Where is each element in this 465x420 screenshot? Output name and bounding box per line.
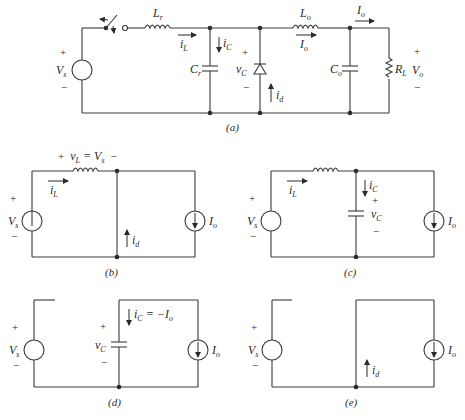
- vo-plus: +: [414, 45, 420, 57]
- rl-label: RL: [394, 62, 407, 78]
- switch-contact: [123, 26, 128, 31]
- io-label: Io: [447, 343, 456, 359]
- caption-d: (d): [108, 396, 121, 409]
- id-label: id: [372, 363, 380, 379]
- voltage-source-vs: [261, 211, 281, 231]
- vs-minus: −: [250, 230, 256, 242]
- diode-icon: [254, 64, 266, 74]
- voltage-source-vs: [72, 60, 92, 80]
- id-label: id: [276, 88, 284, 104]
- panel-a-circuit: + − Vs Lr iL Cr iC + vC −: [56, 3, 423, 134]
- vs-minus: −: [61, 81, 67, 93]
- vs-label: Vs: [56, 63, 66, 79]
- resonant-converter-figure: + − Vs Lr iL Cr iC + vC −: [0, 0, 465, 420]
- vc-minus: −: [243, 81, 249, 93]
- caption-e: (e): [345, 396, 358, 409]
- node: [354, 385, 359, 390]
- vs-minus: −: [11, 230, 17, 242]
- caption-a: (a): [226, 121, 239, 134]
- switch-blade-icon: [106, 15, 117, 28]
- vs-label: Vs: [9, 343, 19, 359]
- vc-plus: +: [372, 194, 378, 206]
- vs-label: Vs: [8, 214, 18, 230]
- vs-plus: +: [251, 321, 257, 333]
- caption-b: (b): [105, 266, 118, 279]
- node: [208, 111, 213, 116]
- node: [348, 111, 353, 116]
- io-label: Io: [211, 343, 220, 359]
- output-io-label: Io: [356, 3, 365, 19]
- io-label: Io: [208, 214, 217, 230]
- vl-equals-vs-label: +vL = Vs−: [58, 149, 117, 165]
- vs-plus: +: [10, 192, 16, 204]
- vc-plus: +: [100, 320, 106, 332]
- vo-label: Vo: [412, 63, 423, 79]
- node: [354, 255, 359, 260]
- panel-b-circuit: + Vs − +vL = Vs− iL id Io (b): [8, 149, 217, 279]
- vs-minus: −: [252, 359, 258, 371]
- vo-minus: −: [414, 81, 420, 93]
- inductor-icon: [73, 168, 98, 171]
- co-label: Co: [330, 62, 342, 78]
- il-label: iL: [289, 183, 297, 199]
- lo-label: Lo: [299, 6, 311, 22]
- vs-minus: −: [13, 359, 19, 371]
- vs-plus: +: [249, 192, 255, 204]
- vs-label: Vs: [248, 343, 258, 359]
- cr-label: Cr: [190, 62, 202, 78]
- lr-label: Lr: [152, 6, 164, 22]
- resistor-rl-icon: [386, 58, 392, 77]
- switch-arrow-icon: [100, 19, 108, 20]
- vs-label: Vs: [247, 214, 257, 230]
- inductor-lo-icon: [293, 25, 318, 28]
- vc-minus: −: [373, 225, 379, 237]
- vs-plus: +: [12, 321, 18, 333]
- vc-plus: +: [242, 46, 248, 58]
- node: [117, 385, 122, 390]
- caption-c: (c): [344, 266, 357, 279]
- vc-label: vC: [95, 338, 106, 354]
- id-label: id: [132, 233, 140, 249]
- ic-label: iC: [369, 178, 378, 194]
- vc-label: vC: [371, 207, 382, 223]
- voltage-source-vs: [24, 340, 44, 360]
- panel-d-circuit: + Vs − + vC − iC = −Io Io (d): [9, 300, 220, 409]
- ic-equals-minus-io-label: iC = −Io: [134, 307, 173, 323]
- ic-label: iC: [223, 36, 232, 52]
- vc-label: vC: [236, 62, 247, 78]
- io-label: Io: [299, 37, 308, 53]
- il-label: iL: [50, 183, 58, 199]
- panel-e-circuit: + Vs − id Io (e): [248, 300, 456, 409]
- vs-plus: +: [60, 46, 66, 58]
- il-label: iL: [180, 37, 188, 53]
- node: [258, 111, 263, 116]
- io-label: Io: [447, 214, 456, 230]
- inductor-lr-icon: [145, 25, 170, 28]
- node: [115, 255, 120, 260]
- inductor-icon: [313, 168, 338, 171]
- vc-minus: −: [101, 356, 107, 368]
- switch-arrow-icon: [113, 26, 114, 33]
- panel-c-circuit: + Vs − iL iC + vC − Io (c): [247, 168, 456, 279]
- voltage-source-vs: [262, 340, 282, 360]
